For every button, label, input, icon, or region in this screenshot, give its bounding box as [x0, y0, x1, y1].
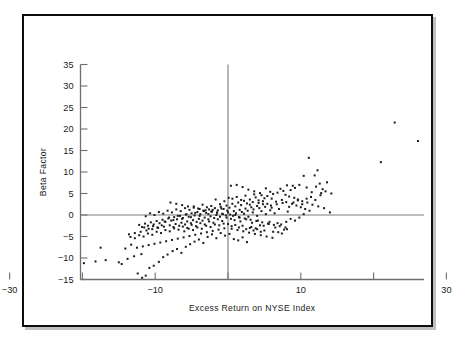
data-point [314, 174, 316, 176]
data-point [164, 229, 166, 231]
data-point [208, 220, 210, 222]
data-point [145, 229, 147, 231]
data-point [243, 213, 245, 215]
data-point [260, 210, 262, 212]
data-point [156, 220, 158, 222]
data-point [225, 214, 227, 216]
data-point [270, 205, 272, 207]
data-point [210, 205, 212, 207]
data-point [164, 220, 166, 222]
data-point [188, 228, 190, 230]
data-point [181, 218, 183, 220]
data-point [264, 206, 266, 208]
data-point [394, 122, 396, 124]
data-point [231, 225, 233, 227]
data-point [319, 183, 321, 185]
data-point [194, 214, 196, 216]
data-point [262, 200, 264, 202]
data-point [159, 222, 161, 224]
data-point [203, 210, 205, 212]
data-point [185, 246, 187, 248]
data-point [231, 203, 233, 205]
data-point [213, 217, 215, 219]
data-point [252, 229, 254, 231]
data-point [253, 193, 255, 195]
data-point [285, 226, 287, 228]
data-point [325, 190, 327, 192]
data-point [212, 209, 214, 211]
data-point [242, 230, 244, 232]
data-point [212, 230, 214, 232]
data-point [279, 225, 281, 227]
data-point [231, 198, 233, 200]
data-point [172, 219, 174, 221]
data-point [173, 227, 175, 229]
data-point [201, 228, 203, 230]
data-point [282, 190, 284, 192]
data-point [134, 232, 136, 234]
data-point [190, 216, 192, 218]
data-point [192, 219, 194, 221]
data-point [329, 211, 331, 213]
data-point [247, 216, 249, 218]
data-point [218, 224, 220, 226]
data-point [205, 212, 207, 214]
data-point [175, 223, 177, 225]
data-point [298, 217, 300, 219]
data-point [204, 217, 206, 219]
data-point [252, 208, 254, 210]
data-point [294, 220, 296, 222]
data-point [265, 187, 267, 189]
data-point [259, 192, 261, 194]
axis-labels-group: Excess Return on NYSE IndexBeta Factor [38, 148, 316, 313]
data-point [290, 189, 292, 191]
data-point [206, 206, 208, 208]
data-point [152, 225, 154, 227]
data-point [219, 216, 221, 218]
data-point [118, 261, 120, 263]
data-point [169, 230, 171, 232]
data-point [190, 222, 192, 224]
data-point [163, 226, 165, 228]
data-point [255, 196, 257, 198]
data-point [281, 199, 283, 201]
y-axis-tick-label: 15 [63, 146, 73, 156]
data-point [244, 195, 246, 197]
data-point [285, 194, 287, 196]
data-point [219, 203, 221, 205]
data-point [138, 234, 140, 236]
data-point [274, 226, 276, 228]
data-point [262, 203, 264, 205]
data-point [286, 184, 288, 186]
data-point [285, 201, 287, 203]
data-point [244, 208, 246, 210]
data-point [150, 221, 152, 223]
data-point [199, 213, 201, 215]
data-point [186, 213, 188, 215]
data-point [189, 243, 191, 245]
data-point [236, 196, 238, 198]
data-point [269, 221, 271, 223]
data-point [129, 236, 131, 238]
data-point [127, 258, 129, 260]
data-point [180, 210, 182, 212]
data-point [169, 202, 171, 204]
data-point [223, 227, 225, 229]
data-point [188, 216, 190, 218]
data-point [128, 233, 130, 235]
data-point [322, 188, 324, 190]
data-point [293, 197, 295, 199]
data-point [231, 228, 233, 230]
data-point [148, 267, 150, 269]
y-axis-tick-label: −15 [58, 275, 74, 285]
data-point [279, 188, 281, 190]
data-point [242, 186, 244, 188]
data-point [229, 214, 231, 216]
data-point [215, 199, 217, 201]
data-point [234, 205, 236, 207]
data-point [265, 213, 267, 215]
data-point [233, 210, 235, 212]
data-point [287, 211, 289, 213]
data-point [124, 248, 126, 250]
data-point [143, 236, 145, 238]
